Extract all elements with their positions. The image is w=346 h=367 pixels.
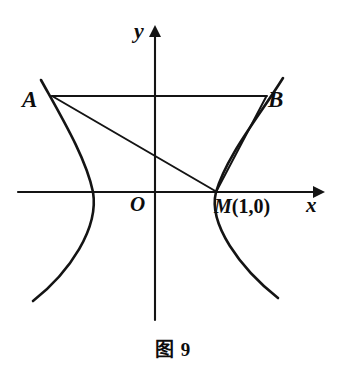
y-axis-arrow-icon [149, 25, 161, 37]
point-label-b: B [268, 88, 283, 111]
figure-container: A B O y x M(1,0) 图 9 [0, 0, 346, 367]
hyperbola-left-branch [33, 80, 94, 301]
point-label-m: M(1,0) [214, 196, 270, 216]
hyperbola-diagram [0, 0, 346, 367]
point-label-m-coords: (1,0) [232, 195, 270, 217]
x-axis-label: x [306, 195, 317, 216]
point-label-a: A [22, 88, 37, 111]
origin-label: O [130, 194, 145, 215]
figure-caption: 图 9 [0, 334, 346, 361]
point-label-m-name: M [214, 195, 232, 217]
y-axis-label: y [134, 20, 144, 42]
segment-mb [216, 97, 266, 192]
